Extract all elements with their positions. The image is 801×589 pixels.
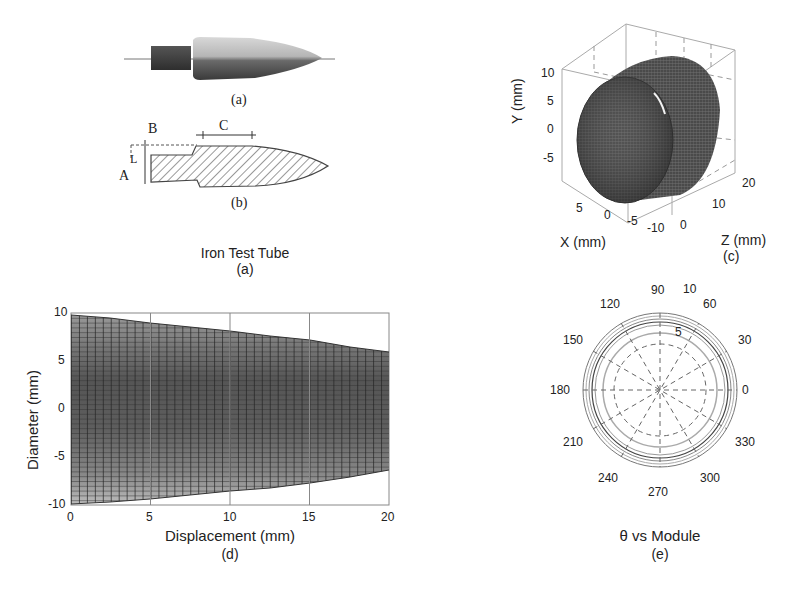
panel-e-caption: (e): [600, 546, 720, 562]
radial-label-10: 10: [683, 282, 696, 296]
angle-label-300: 300: [700, 471, 720, 485]
angle-label-330: 330: [735, 435, 755, 449]
angle-label-0: 0: [742, 383, 749, 397]
angle-label-270: 270: [648, 485, 668, 499]
angle-label-240: 240: [598, 471, 618, 485]
angle-label-120: 120: [600, 297, 620, 311]
angle-label-60: 60: [703, 297, 716, 311]
polar-plot: [0, 0, 801, 589]
angle-label-30: 30: [738, 333, 751, 347]
angle-label-180: 180: [550, 383, 570, 397]
angle-label-90: 90: [651, 283, 664, 297]
angle-label-210: 210: [563, 435, 583, 449]
radial-label-5: 5: [675, 325, 682, 339]
panel-e-title: θ vs Module: [600, 527, 720, 544]
angle-label-150: 150: [563, 333, 583, 347]
